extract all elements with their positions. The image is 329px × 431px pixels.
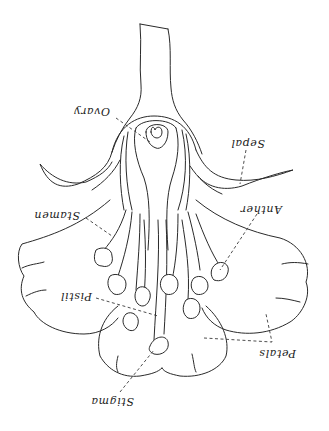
leader-anther: [220, 214, 257, 270]
anther: [211, 262, 228, 280]
leader-stamen: [86, 218, 112, 236]
label-pistil: Pistil: [60, 290, 93, 303]
sepal-left: [40, 152, 112, 186]
petal-right-crease: [276, 263, 308, 303]
filament: [118, 212, 132, 276]
ovary-wall: [134, 128, 178, 250]
label-stigma: Stigma: [91, 395, 134, 408]
anther: [108, 274, 126, 294]
anther: [160, 274, 178, 294]
filament: [196, 214, 220, 266]
receptacle: [112, 116, 196, 152]
ovule: [146, 125, 168, 149]
leader-stigma: [120, 350, 154, 392]
filament: [104, 210, 126, 250]
leader-sepal: [240, 150, 246, 184]
sepal-right: [196, 150, 293, 188]
stem: [168, 29, 202, 154]
label-sepal: Sepal: [231, 137, 265, 150]
anther: [94, 248, 112, 267]
anther: [183, 298, 200, 318]
filament: [182, 220, 189, 300]
anther: [135, 287, 150, 306]
petal-left-crease: [22, 262, 46, 296]
label-ovary: Ovary: [74, 105, 110, 118]
stem: [112, 24, 141, 152]
petal-bottom-crease: [117, 354, 197, 372]
style: [154, 220, 159, 340]
label-stamen: Stamen: [34, 209, 80, 222]
anther: [191, 276, 208, 294]
leader-petals: [204, 314, 272, 342]
tube-left: [120, 132, 132, 210]
filament: [136, 214, 140, 290]
sepal-right-inner: [190, 166, 222, 194]
label-petals: Petals: [259, 347, 297, 360]
flower-drawing: Ovary Sepal Anther Stamen Pistil Petals …: [0, 0, 329, 431]
anther: [123, 313, 138, 331]
stem-top: [140, 24, 168, 29]
filament: [144, 220, 146, 298]
filament: [172, 214, 178, 280]
flower-diagram: Ovary Sepal Anther Stamen Pistil Petals …: [0, 0, 329, 431]
tube-right: [178, 130, 190, 210]
label-anther: Anther: [240, 203, 283, 216]
ovule-inner: [151, 127, 162, 138]
